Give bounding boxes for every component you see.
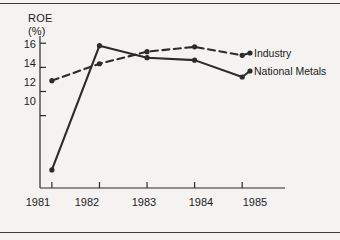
y-axis-ticks [40, 43, 46, 115]
chart-figure: ROE (%) 16 14 12 10 1981 1982 1983 1984 … [0, 0, 340, 240]
series-line-industry [49, 44, 244, 83]
x-axis-ticks [52, 182, 242, 188]
series-label-leader-lines [242, 50, 252, 77]
series-line-national-metals [49, 43, 244, 172]
chart-canvas [0, 0, 340, 240]
